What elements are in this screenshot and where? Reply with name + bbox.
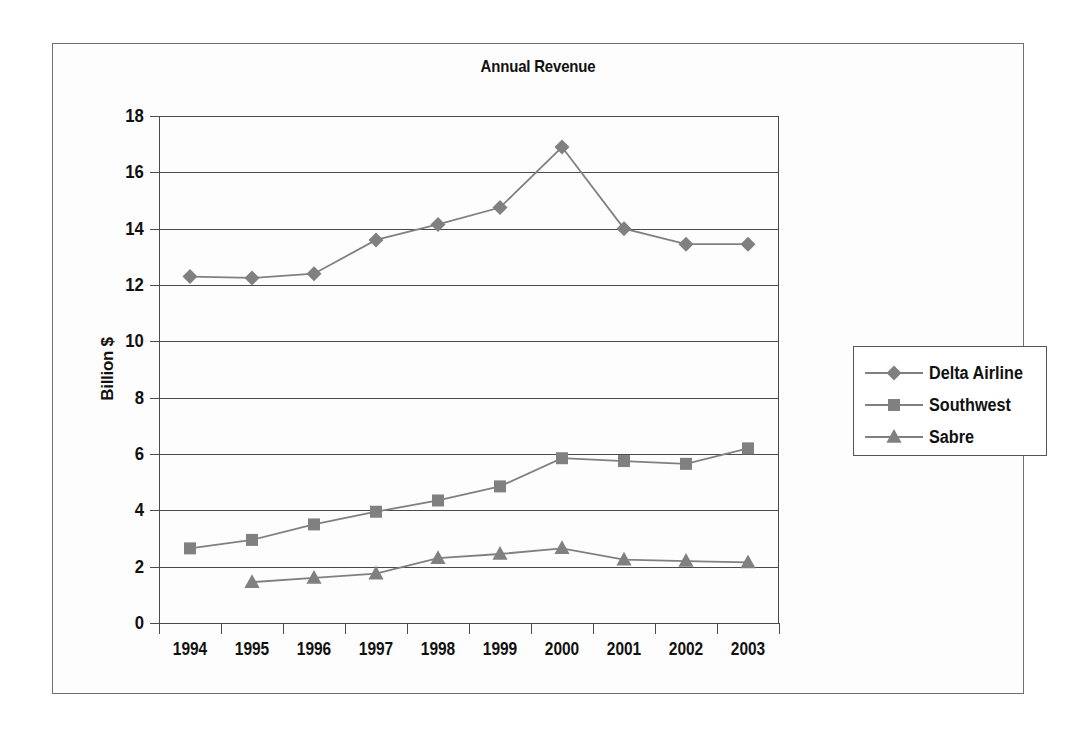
y-tick-mark xyxy=(150,341,159,342)
y-tick-label: 18 xyxy=(125,105,144,127)
y-tick-label: 0 xyxy=(135,612,144,634)
y-tick-mark xyxy=(150,398,159,399)
x-tick-mark xyxy=(469,623,470,634)
x-tick-mark xyxy=(159,623,160,634)
series-sabre xyxy=(244,540,755,588)
plot-area: 024681012141618 199419951996199719981999… xyxy=(159,116,779,623)
legend-item-label: Southwest xyxy=(929,395,1011,416)
data-point-marker xyxy=(183,269,198,284)
data-point-marker xyxy=(886,429,901,443)
x-tick-label: 2001 xyxy=(607,639,641,660)
y-tick-mark xyxy=(150,172,159,173)
data-point-marker xyxy=(678,553,693,567)
data-point-marker xyxy=(556,452,568,464)
data-point-marker xyxy=(618,455,630,467)
chart-title: Annual Revenue xyxy=(111,57,965,77)
data-point-marker xyxy=(370,506,382,518)
data-point-marker xyxy=(554,540,569,554)
y-tick-mark xyxy=(150,116,159,117)
y-axis-label: Billion $ xyxy=(98,337,118,400)
data-point-marker xyxy=(431,217,446,232)
x-tick-mark xyxy=(221,623,222,634)
y-tick-label: 4 xyxy=(135,499,144,521)
x-tick-mark xyxy=(717,623,718,634)
x-tick-mark xyxy=(283,623,284,634)
data-point-marker xyxy=(617,221,632,236)
x-tick-label: 1997 xyxy=(359,639,393,660)
data-point-marker xyxy=(245,270,260,285)
x-tick-mark xyxy=(655,623,656,634)
x-tick-label: 2003 xyxy=(731,639,765,660)
legend-item-label: Delta Airline xyxy=(929,363,1023,384)
y-tick-mark xyxy=(150,454,159,455)
x-tick-label: 1995 xyxy=(235,639,269,660)
series-line xyxy=(190,448,748,548)
y-tick-label: 16 xyxy=(125,161,144,183)
x-tick-label: 1996 xyxy=(297,639,331,660)
y-tick-mark xyxy=(150,229,159,230)
series-southwest xyxy=(184,442,754,554)
legend-item-label: Sabre xyxy=(929,427,974,448)
legend-item-sabre[interactable]: Sabre xyxy=(854,419,1046,455)
x-tick-label: 1994 xyxy=(173,639,207,660)
data-point-marker xyxy=(184,542,196,554)
series-delta-airline xyxy=(183,139,756,285)
y-tick-label: 12 xyxy=(125,274,144,296)
triangle-marker-icon xyxy=(863,424,925,450)
y-tick-mark xyxy=(150,623,159,624)
series-line xyxy=(190,147,748,278)
x-tick-label: 1999 xyxy=(483,639,517,660)
data-point-marker xyxy=(308,518,320,530)
data-point-marker xyxy=(679,237,694,252)
data-point-marker xyxy=(432,494,444,506)
x-tick-mark xyxy=(531,623,532,634)
y-tick-mark xyxy=(150,567,159,568)
x-tick-label: 2002 xyxy=(669,639,703,660)
square-marker-icon xyxy=(863,392,925,418)
chart-figure: Annual Revenue Billion $ 024681012141618… xyxy=(0,0,1077,735)
data-point-marker xyxy=(680,458,692,470)
y-tick-label: 6 xyxy=(135,443,144,465)
y-tick-mark xyxy=(150,510,159,511)
y-tick-label: 14 xyxy=(125,218,144,240)
x-tick-label: 1998 xyxy=(421,639,455,660)
y-tick-label: 10 xyxy=(125,330,144,352)
y-tick-mark xyxy=(150,285,159,286)
chart-legend: Delta AirlineSouthwestSabre xyxy=(853,346,1047,456)
data-point-marker xyxy=(740,554,755,568)
data-point-marker xyxy=(887,366,902,381)
data-point-marker xyxy=(494,480,506,492)
data-point-marker xyxy=(307,266,322,281)
x-tick-mark xyxy=(593,623,594,634)
data-point-marker xyxy=(369,232,384,247)
y-tick-label: 8 xyxy=(135,387,144,409)
diamond-marker-icon xyxy=(863,360,925,386)
x-tick-mark xyxy=(779,623,780,634)
x-tick-mark xyxy=(407,623,408,634)
data-point-marker xyxy=(742,442,754,454)
x-tick-label: 2000 xyxy=(545,639,579,660)
y-tick-label: 2 xyxy=(135,556,144,578)
data-point-marker xyxy=(741,237,756,252)
data-point-marker xyxy=(246,534,258,546)
chart-frame: Annual Revenue Billion $ 024681012141618… xyxy=(52,43,1024,694)
legend-item-delta-airline[interactable]: Delta Airline xyxy=(854,355,1046,391)
x-tick-mark xyxy=(345,623,346,634)
data-point-marker xyxy=(888,399,900,411)
series-layer xyxy=(159,116,779,623)
legend-item-southwest[interactable]: Southwest xyxy=(854,387,1046,423)
